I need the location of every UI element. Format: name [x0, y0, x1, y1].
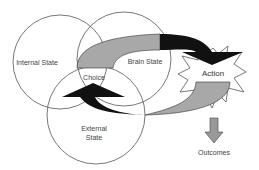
outcomes-arrow-icon	[205, 118, 223, 143]
brain-state-label: Brain State	[128, 57, 163, 66]
internal-state-label: Internal State	[16, 58, 58, 67]
action-label: Action	[202, 69, 224, 78]
action-to-choice-arrow-head	[62, 83, 145, 115]
choice-label: Choice	[83, 73, 105, 82]
external-state-label-line1: External	[81, 124, 107, 133]
diagram-canvas	[0, 0, 259, 170]
outcomes-label: Outcomes	[198, 148, 230, 157]
external-state-label-line2: State	[86, 133, 102, 142]
